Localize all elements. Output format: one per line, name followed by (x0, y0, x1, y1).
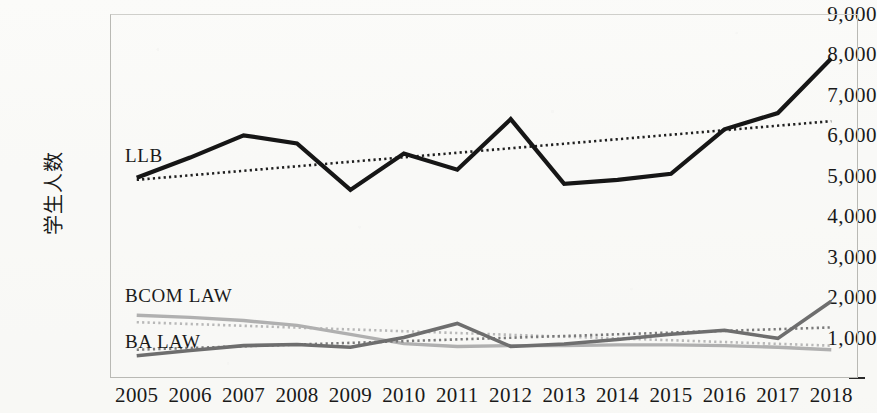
y-axis-title: 学生人数 (38, 133, 67, 253)
series-label-llb: LLB (125, 145, 163, 167)
chart-page: 学生人数 1,0002,0003,0004,0005,0006,0007,000… (0, 0, 877, 413)
series-label-ba-law: BA LAW (125, 331, 200, 353)
plot-area (110, 14, 858, 378)
x-axis-tick-label: 2018 (800, 383, 862, 407)
series-label-bcom-law: BCOM LAW (125, 285, 232, 307)
